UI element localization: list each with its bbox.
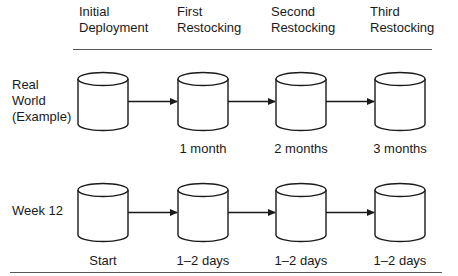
restocking-diagram <box>0 0 458 276</box>
caption-row2-col3: 1–2 days <box>261 253 341 269</box>
cylinder-icon <box>178 73 228 131</box>
caption-row2-col1: Start <box>63 253 143 269</box>
caption-row1-col3: 2 months <box>261 141 341 157</box>
caption-row2-col4: 1–2 days <box>360 253 440 269</box>
caption-row1-col4: 3 months <box>360 141 440 157</box>
caption-row1-col2: 1 month <box>163 141 243 157</box>
cylinder-icon <box>78 73 128 131</box>
cylinder-icon <box>276 184 326 242</box>
cylinder-icon <box>78 184 128 242</box>
cylinder-icon <box>375 73 425 131</box>
cylinder-icon <box>178 184 228 242</box>
cylinder-icon <box>276 73 326 131</box>
caption-row2-col2: 1–2 days <box>163 253 243 269</box>
cylinder-icon <box>375 184 425 242</box>
